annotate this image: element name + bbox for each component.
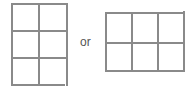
or-label: or (80, 35, 91, 49)
tall-grid-3x2 (0, 0, 80, 88)
wide-grid-2x3 (95, 0, 195, 88)
